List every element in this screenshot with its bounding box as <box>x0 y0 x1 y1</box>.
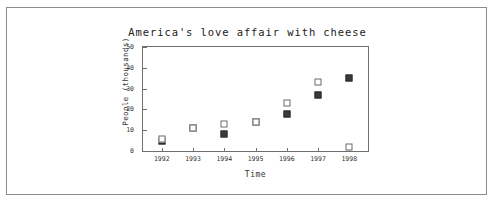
chart-title: America's love affair with cheese <box>7 26 488 38</box>
y-tick-label: 40 <box>126 64 134 72</box>
screenshot-root: America's love affair with cheese People… <box>0 0 494 203</box>
x-tick-label: 1994 <box>216 155 232 163</box>
data-point-marker <box>315 79 322 86</box>
data-point-marker <box>346 75 353 82</box>
x-tick-label: 1998 <box>341 155 357 163</box>
y-tick-label: 0 <box>130 147 134 155</box>
plot-frame: People (thousands) 01020304050 199219931… <box>142 46 369 152</box>
x-axis-label: Time <box>142 170 369 179</box>
data-point-marker <box>283 110 290 117</box>
x-tick-label: 1992 <box>154 155 170 163</box>
data-point-marker <box>283 100 290 107</box>
y-tick-label: 30 <box>126 85 134 93</box>
chart-figure: America's love affair with cheese People… <box>7 8 488 196</box>
y-tick-mark <box>143 151 147 152</box>
image-border-frame: America's love affair with cheese People… <box>6 7 487 195</box>
x-tick-label: 1996 <box>279 155 295 163</box>
y-tick-label: 10 <box>126 126 134 134</box>
y-tick-label: 20 <box>126 105 134 113</box>
x-tick-label: 1993 <box>185 155 201 163</box>
data-point-marker <box>221 120 228 127</box>
data-point-marker <box>158 135 165 142</box>
x-tick-label: 1995 <box>248 155 264 163</box>
plot-data-area <box>143 47 368 151</box>
data-point-marker <box>315 91 322 98</box>
data-point-marker <box>221 131 228 138</box>
x-tick-label: 1997 <box>310 155 326 163</box>
data-point-marker <box>346 143 353 150</box>
data-point-marker <box>190 125 197 132</box>
data-point-marker <box>252 118 259 125</box>
y-tick-label: 50 <box>126 43 134 51</box>
